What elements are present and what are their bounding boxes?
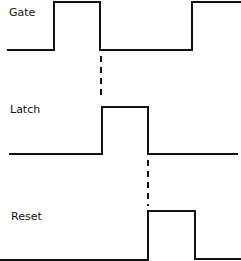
timing-diagram: Gate Latch Reset bbox=[0, 0, 241, 261]
gate-waveform bbox=[7, 2, 241, 50]
latch-label: Latch bbox=[10, 104, 40, 115]
latch-waveform bbox=[9, 107, 238, 154]
gate-label: Gate bbox=[9, 7, 35, 18]
reset-label: Reset bbox=[11, 211, 42, 222]
